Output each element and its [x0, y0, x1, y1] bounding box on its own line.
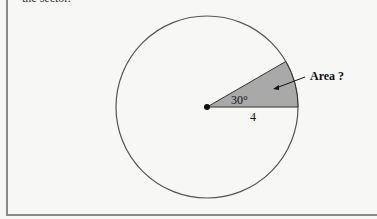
area-label: Area ?: [310, 69, 344, 83]
center-point: [204, 104, 210, 110]
circle-sector-diagram: 30° 4 Area ?: [0, 0, 377, 219]
angle-label: 30°: [231, 93, 248, 107]
shaded-sector: [207, 62, 298, 108]
radius-label: 4: [250, 110, 256, 124]
